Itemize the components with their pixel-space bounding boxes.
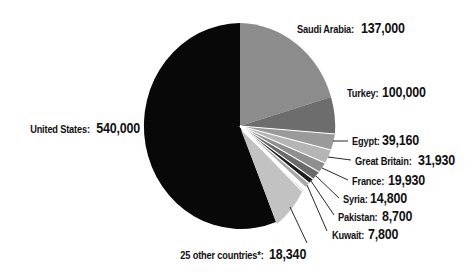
leader-line-other-countries bbox=[290, 207, 307, 243]
callout-label-name: Saudi Arabia: bbox=[297, 24, 354, 35]
callout-label-name: Syria: bbox=[343, 194, 368, 205]
pie-chart-figure: United States: 540,000 Saudi Arabia: 137… bbox=[0, 0, 470, 273]
leader-line-great-britain bbox=[328, 157, 351, 160]
callout-label-value: 18,340 bbox=[269, 247, 306, 262]
leader-line-pakistan bbox=[311, 181, 334, 215]
callout-great-britain: Great Britain: 31,930 bbox=[355, 153, 461, 168]
callout-france: France: 19,930 bbox=[352, 173, 431, 188]
callout-label-name: Egypt: bbox=[352, 136, 380, 147]
callout-label-value: 31,930 bbox=[418, 153, 455, 168]
callout-pakistan: Pakistan: 8,700 bbox=[338, 209, 417, 224]
leader-line-france bbox=[322, 168, 348, 180]
callout-united-states: United States: 540,000 bbox=[10, 121, 140, 136]
callout-label-name: United States: bbox=[30, 124, 90, 135]
callout-label-name: Kuwait: bbox=[332, 230, 364, 241]
callout-kuwait: Kuwait: 7,800 bbox=[332, 227, 403, 242]
leader-line-syria bbox=[316, 176, 339, 198]
callout-turkey: Turkey: 100,000 bbox=[347, 85, 433, 100]
callout-label-value: 14,800 bbox=[370, 191, 407, 206]
callout-saudi-arabia: Saudi Arabia: 137,000 bbox=[297, 21, 412, 36]
callout-label-name: France: bbox=[352, 176, 384, 187]
callout-label-name: 25 other countries*: bbox=[181, 250, 264, 261]
callout-label-value: 39,160 bbox=[382, 133, 419, 148]
callout-label-name: Great Britain: bbox=[355, 156, 412, 167]
callout-syria: Syria: 14,800 bbox=[343, 191, 413, 206]
callout-label-value: 100,000 bbox=[382, 85, 426, 100]
callout-label-name: Pakistan: bbox=[338, 212, 378, 223]
callout-label-value: 19,930 bbox=[388, 173, 425, 188]
callout-other-countries: 25 other countries*: 18,340 bbox=[110, 247, 306, 262]
callout-label-name: Turkey: bbox=[347, 88, 378, 99]
callout-egypt: Egypt: 39,160 bbox=[352, 133, 426, 148]
callout-label-value: 8,700 bbox=[382, 209, 412, 224]
leader-line-kuwait bbox=[307, 185, 327, 231]
callout-label-value: 7,800 bbox=[368, 227, 398, 242]
callout-label-value: 540,000 bbox=[96, 121, 140, 136]
callout-label-value: 137,000 bbox=[361, 21, 405, 36]
